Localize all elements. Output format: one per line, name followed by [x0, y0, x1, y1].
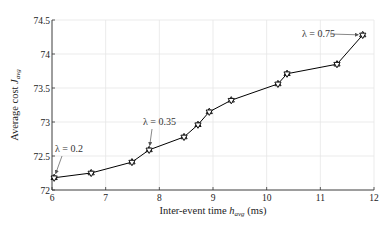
line-chart: 6789101112 7272.57373.57474.5 λ = 0.2λ =…: [0, 0, 390, 225]
x-tick-label: 11: [316, 193, 325, 203]
x-axis-ticks: 6789101112: [50, 187, 379, 203]
x-tick-label: 12: [369, 193, 379, 203]
x-tick-label: 8: [157, 193, 162, 203]
annotation-label: λ = 0.2: [55, 143, 83, 154]
annotation-arrow: [150, 129, 152, 145]
y-tick-label: 74: [41, 50, 51, 60]
y-tick-label: 72.5: [33, 152, 50, 162]
y-tick-label: 74.5: [33, 16, 50, 26]
x-tick-label: 6: [50, 193, 55, 203]
x-tick-label: 7: [103, 193, 108, 203]
hexagram-marker-icon: [88, 169, 94, 176]
y-tick-label: 73.5: [33, 84, 50, 94]
x-axis-label: Inter-event time havg (ms): [160, 205, 268, 218]
x-tick-label: 10: [262, 193, 272, 203]
hexagram-marker-icon: [146, 146, 152, 153]
annotation-label: λ = 0.75: [302, 28, 335, 39]
hexagram-marker-icon: [228, 97, 234, 104]
y-tick-label: 72: [41, 186, 51, 196]
annotation-arrow: [56, 156, 62, 174]
annotation-label: λ = 0.35: [143, 116, 176, 127]
hexagram-marker-icon: [129, 159, 135, 166]
grid-lines: [52, 20, 374, 190]
x-tick-label: 9: [211, 193, 216, 203]
y-tick-label: 73: [41, 118, 51, 128]
y-axis-label: Average cost Javg: [9, 69, 22, 141]
annotations: λ = 0.2λ = 0.35λ = 0.75: [55, 28, 358, 174]
